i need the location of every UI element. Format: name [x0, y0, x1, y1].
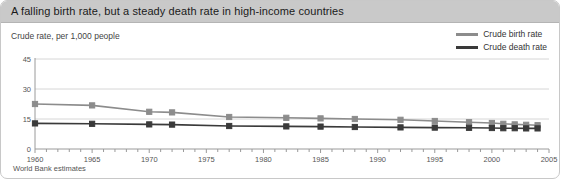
- data-point-marker: [352, 116, 357, 121]
- line-chart: 0153045196019651970197519801985199019952…: [1, 1, 560, 179]
- data-point-marker: [489, 120, 494, 125]
- data-point-marker: [32, 101, 37, 106]
- data-point-marker: [169, 110, 174, 115]
- data-point-marker: [432, 118, 437, 123]
- x-tick-label: 1970: [141, 155, 158, 164]
- x-tick-label: 1975: [198, 155, 215, 164]
- data-point-marker: [90, 103, 95, 108]
- x-tick-label: 1985: [312, 155, 329, 164]
- data-point-marker: [432, 125, 437, 130]
- data-point-marker: [284, 124, 289, 129]
- data-point-marker: [284, 115, 289, 120]
- x-tick-label: 1995: [426, 155, 443, 164]
- data-point-marker: [398, 117, 403, 122]
- data-point-marker: [466, 120, 471, 125]
- data-point-marker: [32, 121, 37, 126]
- y-tick-label: 0: [27, 145, 31, 154]
- data-point-marker: [169, 122, 174, 127]
- data-point-marker: [147, 122, 152, 127]
- data-point-marker: [466, 125, 471, 130]
- x-tick-label: 1960: [27, 155, 44, 164]
- data-point-marker: [318, 124, 323, 129]
- y-tick-label: 45: [23, 55, 31, 64]
- data-point-marker: [318, 116, 323, 121]
- data-point-marker: [535, 126, 540, 131]
- source-note: World Bank estimates: [13, 164, 86, 173]
- data-point-marker: [227, 123, 232, 128]
- data-point-marker: [489, 125, 494, 130]
- x-tick-label: 1990: [369, 155, 386, 164]
- data-point-marker: [147, 109, 152, 114]
- x-tick-label: 1980: [255, 155, 272, 164]
- data-point-marker: [227, 114, 232, 119]
- data-point-marker: [352, 124, 357, 129]
- data-point-marker: [501, 126, 506, 131]
- x-tick-label: 2000: [484, 155, 501, 164]
- plot-area: 0153045196019651970197519801985199019952…: [1, 1, 560, 179]
- x-tick-label: 1965: [84, 155, 101, 164]
- chart-card: A falling birth rate, but a steady death…: [0, 0, 560, 179]
- data-point-marker: [398, 125, 403, 130]
- y-tick-label: 15: [23, 115, 31, 124]
- series-line: [35, 104, 538, 125]
- x-tick-label: 2005: [541, 155, 558, 164]
- data-point-marker: [90, 121, 95, 126]
- data-point-marker: [512, 126, 517, 131]
- y-tick-label: 30: [23, 85, 31, 94]
- data-point-marker: [524, 126, 529, 131]
